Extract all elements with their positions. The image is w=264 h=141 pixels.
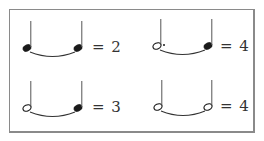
- tied-notes-half-quarter: [22, 81, 83, 117]
- tie-arc: [30, 112, 75, 117]
- tied-notes-quarter-quarter: [22, 21, 83, 57]
- notation-canvas: [0, 0, 264, 141]
- equation-bottom-right: = 4: [220, 97, 250, 115]
- tie-arc: [160, 50, 205, 55]
- equation-bottom-left: = 3: [92, 98, 122, 116]
- tied-notes-half-half: [153, 80, 213, 116]
- tie-arc: [30, 52, 75, 57]
- equation-top-right: = 4: [220, 37, 250, 55]
- augmentation-dot: [163, 44, 165, 46]
- tied-notes-dotted-half-quarter: [152, 19, 213, 55]
- tie-arc: [161, 111, 205, 116]
- equation-top-left: = 2: [92, 38, 122, 56]
